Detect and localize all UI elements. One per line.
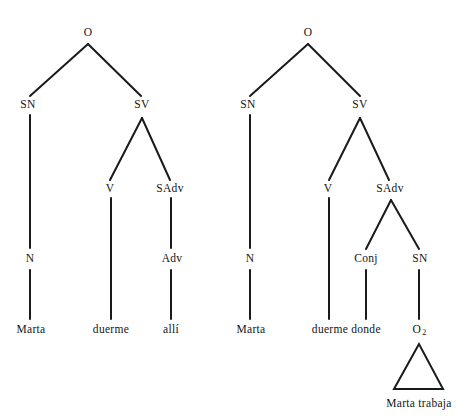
tree-node-r-o2: O2 [413, 324, 426, 336]
tree-node-r-o: O [304, 27, 313, 39]
tree-node-r-marta: Marta [237, 324, 266, 336]
node-label-subscript: 2 [422, 328, 426, 337]
right-tree: OSNSVVSAdvNConjSNMartaduermedondeO2Marta… [0, 0, 456, 419]
tree-node-r-donde: donde [351, 324, 381, 336]
tree-node-r-sv: SV [352, 99, 367, 111]
tree-node-r-v: V [324, 183, 333, 195]
tree-node-r-sadv: SAdv [376, 183, 403, 195]
tree-node-r-sn2: SN [412, 253, 427, 265]
tree-node-r-trabaja: Marta trabaja [386, 398, 452, 410]
syntax-tree-diagram: OSNSVVSAdvNAdvMartaduermeallíOSNSVVSAdvN… [0, 0, 456, 419]
node-label-text: O [413, 323, 422, 335]
tree-node-r-n: N [246, 253, 255, 265]
tree-node-r-sn: SN [240, 99, 255, 111]
tree-node-r-conj: Conj [354, 253, 378, 265]
tree-node-r-duerme: duerme [312, 324, 348, 336]
